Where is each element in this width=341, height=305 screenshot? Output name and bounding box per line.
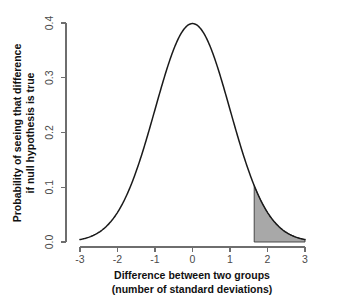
y-tick-label: 0.1 [43,180,55,195]
chart-canvas: -3-2-10123 0.00.10.20.30.4 Difference be… [0,0,341,305]
x-axis-ticks: -3-2-10123 [75,247,308,265]
y-tick-label: 0.4 [43,16,55,31]
x-axis-title-line1: Difference between two groups [114,269,270,281]
y-axis-title-line1: Probability of seeing that difference [11,44,23,223]
normal-distribution-chart: -3-2-10123 0.00.10.20.30.4 Difference be… [0,0,341,305]
y-tick-label: 0.2 [43,125,55,140]
x-tick-label: -1 [150,253,159,265]
y-tick-label: 0.0 [43,235,55,250]
x-tick-label: -2 [113,253,122,265]
x-axis-title-line2: (number of standard deviations) [112,283,272,295]
normal-density-curve [80,24,305,240]
x-tick-label: 0 [190,253,196,265]
y-axis-ticks: 0.00.10.20.30.4 [43,16,66,250]
y-axis-title-line2: if null hypothesis is true [24,72,36,193]
x-tick-label: 2 [265,253,271,265]
x-tick-label: 1 [227,253,233,265]
y-tick-label: 0.3 [43,70,55,85]
rejection-region-shaded-area [254,186,305,242]
x-tick-label: 3 [302,253,308,265]
x-tick-label: -3 [75,253,84,265]
